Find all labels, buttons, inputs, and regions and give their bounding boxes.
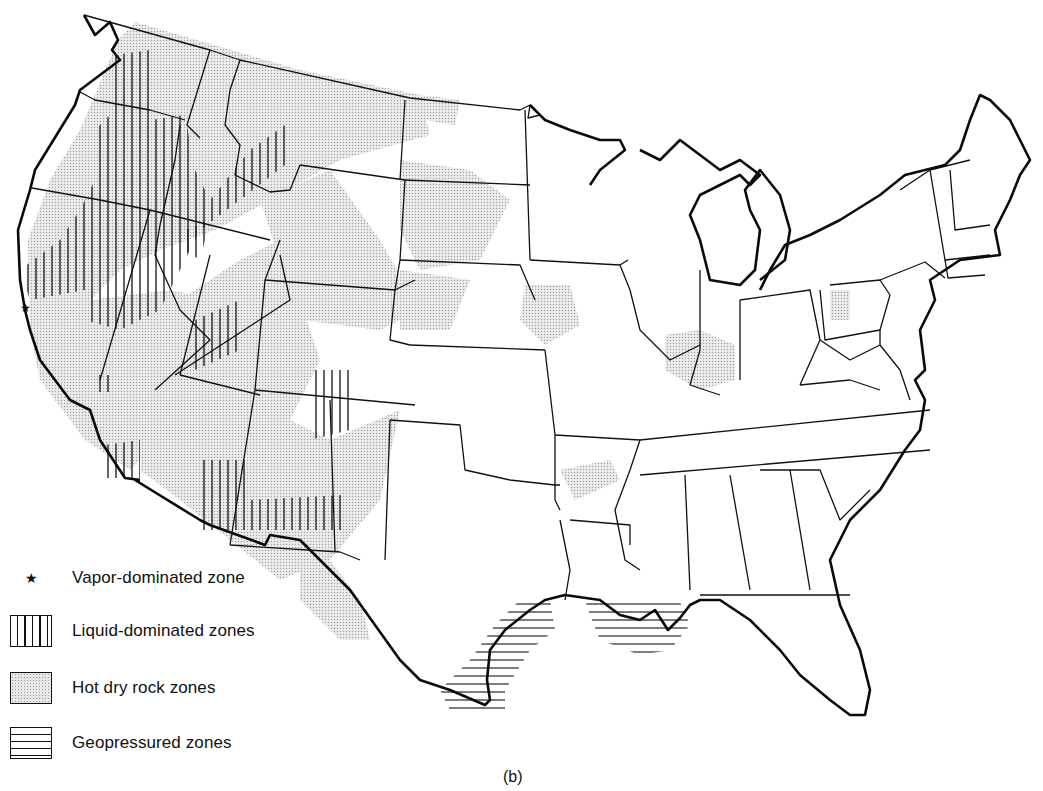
stipple-swatch-icon: [10, 672, 52, 704]
legend-label: Liquid-dominated zones: [72, 621, 255, 641]
legend-item-liquid: Liquid-dominated zones: [10, 613, 255, 649]
vapor-dominated-star-icon: ★: [20, 301, 31, 315]
legend-label: Vapor-dominated zone: [72, 568, 245, 588]
geopressured-zones: [440, 600, 690, 710]
legend-label: Geopressured zones: [72, 733, 232, 753]
figure-caption: (b): [503, 768, 523, 786]
horizontal-hatch-swatch-icon: [10, 727, 52, 759]
legend-item-hot-dry-rock: Hot dry rock zones: [10, 670, 216, 706]
legend-item-geopressured: Geopressured zones: [10, 725, 232, 761]
legend-label: Hot dry rock zones: [72, 678, 216, 698]
legend-item-vapor: ★ Vapor-dominated zone: [10, 560, 245, 596]
hot-dry-rock-zones: [28, 22, 850, 640]
star-icon: ★: [10, 570, 52, 586]
vertical-hatch-swatch-icon: [10, 615, 52, 647]
